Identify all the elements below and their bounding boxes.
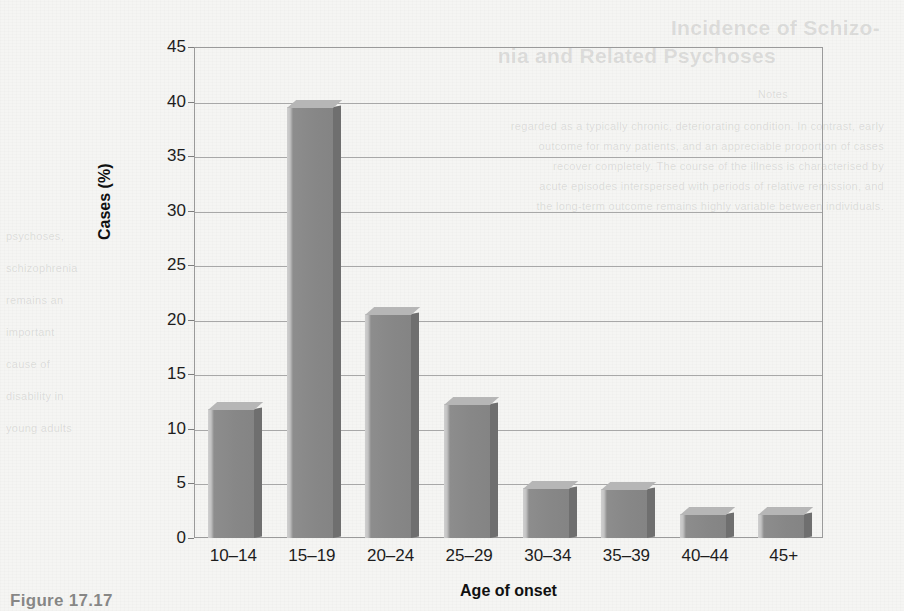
bar[interactable] bbox=[601, 489, 647, 538]
bars-layer bbox=[194, 47, 823, 538]
bar-slot bbox=[509, 47, 588, 538]
bar[interactable] bbox=[758, 514, 804, 538]
y-axis-title: Cases (%) bbox=[96, 164, 114, 240]
y-tick-mark-25 bbox=[188, 265, 194, 266]
y-tick-label-10: 10 bbox=[144, 419, 186, 439]
bar-side-face bbox=[647, 487, 655, 538]
bar-front-face bbox=[758, 514, 804, 538]
y-tick-mark-10 bbox=[188, 429, 194, 430]
bar-top-face bbox=[444, 397, 499, 405]
bar-top-face bbox=[758, 507, 813, 515]
bar[interactable] bbox=[365, 314, 411, 538]
bar-side-face bbox=[333, 105, 341, 538]
bar-top-face bbox=[208, 402, 263, 410]
bar-front-face bbox=[444, 404, 490, 538]
y-tick-mark-45 bbox=[188, 47, 194, 48]
y-tick-mark-0 bbox=[188, 538, 194, 539]
x-tick-label-3: 25–29 bbox=[430, 546, 509, 566]
bar-top-face bbox=[523, 481, 578, 489]
bar-side-face bbox=[726, 512, 734, 538]
bar-slot bbox=[194, 47, 273, 538]
y-tick-label-30: 30 bbox=[144, 201, 186, 221]
x-tick-label-0: 10–14 bbox=[194, 546, 273, 566]
x-tick-label-6: 40–44 bbox=[666, 546, 745, 566]
x-tick-label-5: 35–39 bbox=[587, 546, 666, 566]
bar-side-face bbox=[804, 512, 812, 538]
y-tick-label-40: 40 bbox=[144, 92, 186, 112]
bar-front-face bbox=[523, 488, 569, 538]
y-tick-mark-5 bbox=[188, 483, 194, 484]
bar-front-face bbox=[365, 314, 411, 538]
bar-slot bbox=[430, 47, 509, 538]
y-tick-mark-35 bbox=[188, 156, 194, 157]
x-axis-tick-labels: 10–1415–1920–2425–2930–3435–3940–4445+ bbox=[194, 546, 823, 574]
bar[interactable] bbox=[287, 107, 333, 538]
bar-top-face bbox=[601, 482, 656, 490]
bar-side-face bbox=[411, 313, 419, 538]
bar[interactable] bbox=[680, 514, 726, 538]
y-tick-label-0: 0 bbox=[144, 528, 186, 548]
y-tick-mark-40 bbox=[188, 102, 194, 103]
bar-slot bbox=[587, 47, 666, 538]
y-tick-label-45: 45 bbox=[144, 37, 186, 57]
bar-top-face bbox=[680, 507, 735, 515]
scanned-page: Incidence of Schizo- nia and Related Psy… bbox=[0, 0, 904, 611]
y-tick-label-5: 5 bbox=[144, 473, 186, 493]
bar-top-face bbox=[287, 100, 342, 108]
y-tick-mark-15 bbox=[188, 374, 194, 375]
y-tick-mark-30 bbox=[188, 211, 194, 212]
y-tick-label-35: 35 bbox=[144, 146, 186, 166]
x-tick-label-1: 15–19 bbox=[273, 546, 352, 566]
bar-side-face bbox=[254, 408, 262, 538]
bar-front-face bbox=[680, 514, 726, 538]
bar-side-face bbox=[569, 486, 577, 538]
y-tick-label-15: 15 bbox=[144, 364, 186, 384]
bar[interactable] bbox=[523, 488, 569, 538]
y-axis-tick-labels: 051015202530354045 bbox=[140, 47, 186, 538]
bar-side-face bbox=[490, 402, 498, 538]
y-tick-label-25: 25 bbox=[144, 255, 186, 275]
bar-slot bbox=[744, 47, 823, 538]
y-tick-mark-20 bbox=[188, 320, 194, 321]
bar-chart: Cases (%) 051015202530354045 10–1415–192… bbox=[0, 0, 904, 611]
bar-slot bbox=[351, 47, 430, 538]
x-axis-title: Age of onset bbox=[194, 582, 823, 600]
bar-front-face bbox=[208, 409, 254, 538]
bar[interactable] bbox=[444, 404, 490, 538]
bar-front-face bbox=[287, 107, 333, 538]
bar-slot bbox=[273, 47, 352, 538]
bar[interactable] bbox=[208, 409, 254, 538]
x-tick-label-2: 20–24 bbox=[351, 546, 430, 566]
bar-front-face bbox=[601, 489, 647, 538]
x-tick-label-7: 45+ bbox=[744, 546, 823, 566]
x-tick-label-4: 30–34 bbox=[509, 546, 588, 566]
y-tick-label-20: 20 bbox=[144, 310, 186, 330]
bar-slot bbox=[666, 47, 745, 538]
